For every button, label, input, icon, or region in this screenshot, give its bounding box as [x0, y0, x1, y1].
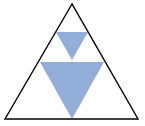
triangle-diagram: [0, 0, 145, 126]
diagram-canvas: [0, 0, 145, 126]
